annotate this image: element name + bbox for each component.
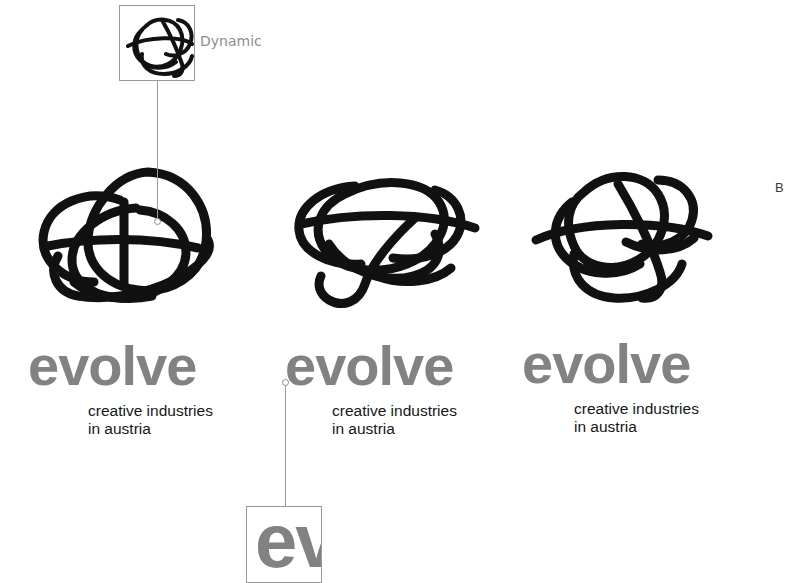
tagline-1: creative industries in austria [88, 402, 213, 438]
scribble-mark-wide [285, 160, 485, 310]
wordmark-3: evolve [522, 336, 690, 392]
callout-wordmark-crop-text: ev [255, 506, 322, 579]
leader-anchor-dynamic [154, 218, 161, 225]
scribble-mark-round [28, 160, 228, 310]
tagline-2: creative industries in austria [332, 402, 457, 438]
callout-scribble-thumbnail [120, 6, 195, 81]
callout-dynamic[interactable] [119, 5, 195, 81]
design-canvas: evolve creative industries in austria ev… [0, 0, 785, 583]
wordmark-2: evolve [285, 338, 453, 394]
edge-label-clipped: B [775, 180, 784, 195]
callout-wordmark-detail[interactable]: ev [246, 506, 322, 583]
wordmark-1: evolve [28, 338, 196, 394]
tagline-3: creative industries in austria [574, 400, 699, 436]
leader-anchor-wordmark [282, 379, 289, 386]
callout-label-dynamic: Dynamic [200, 33, 262, 49]
leader-line-dynamic [157, 80, 158, 223]
scribble-mark-looped [522, 158, 722, 308]
leader-line-wordmark [285, 386, 286, 506]
